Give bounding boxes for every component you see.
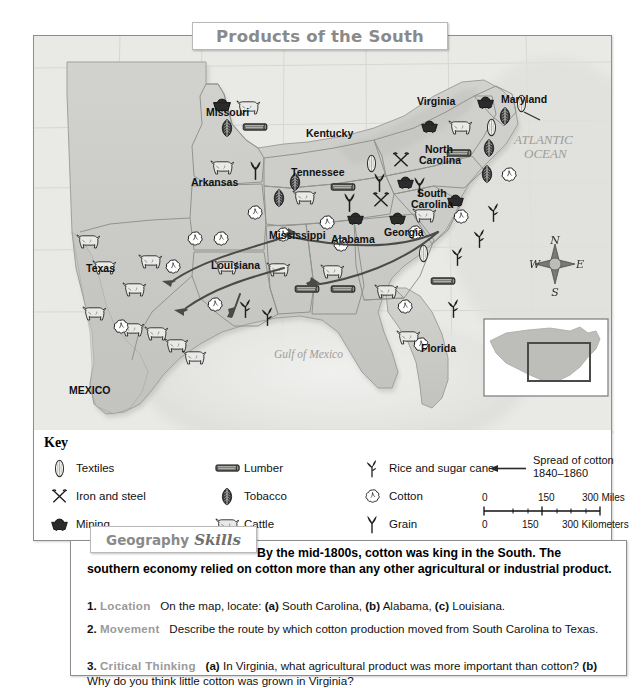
question-3-b-text: Why do you think little cotton was grown… <box>87 674 354 687</box>
map-label-mexico: MEXICO <box>69 384 110 396</box>
scale-km-300: 300 Kilometers <box>562 519 629 530</box>
scale-bar-graphic <box>482 504 632 518</box>
geography-skills-tab: Geography Skills <box>90 526 257 553</box>
scale-miles-300: 300 Miles <box>582 492 625 503</box>
question-3-number: 3. <box>87 659 97 672</box>
map-label-virginia: Virginia <box>417 95 455 107</box>
spread-of-cotton-label: Spread of cotton 1840–1860 <box>533 454 614 479</box>
key-title: Key <box>44 435 68 451</box>
page-title: Products of the South <box>216 27 424 46</box>
map-label-gulf-of-mexico: Gulf of Mexico <box>274 348 343 361</box>
key-item-grain: Grain <box>359 510 494 538</box>
question-1-a-label: (a) <box>265 599 279 612</box>
geography-skills-panel: By the mid-1800s, cotton was king in the… <box>70 540 627 676</box>
svg-text:E: E <box>575 258 584 271</box>
key-label-cotton: Cotton <box>389 490 423 502</box>
key-label-iron-and-steel: Iron and steel <box>76 490 146 502</box>
map-label-georgia: Georgia <box>384 226 424 238</box>
question-2-number: 2. <box>87 622 97 635</box>
spread-arrow-icon <box>489 459 527 477</box>
rice-and-sugar-cane-icon <box>359 457 385 479</box>
map-svg: N E S W Missouri Kentucky Virginia Maryl… <box>34 36 611 431</box>
question-1-body: On the map, locate: (a) South Carolina, … <box>160 599 505 612</box>
question-1-c-label: (c) <box>435 599 449 612</box>
map-scale-bar: 0 150 300 Miles 0 150 300 Kilometers <box>482 492 632 531</box>
textiles-icon <box>46 457 72 479</box>
question-3-a-label: (a) <box>206 659 220 672</box>
key-item-tobacco: Tobacco <box>214 482 287 510</box>
map-label-atlantic-ocean: ATLANTIC <box>513 132 573 147</box>
question-1-a-text: South Carolina, <box>279 599 365 612</box>
scale-km-150: 150 <box>522 519 539 530</box>
key-label-grain: Grain <box>389 518 417 530</box>
question-1-number: 1. <box>87 599 97 612</box>
spread-line-1: Spread of cotton <box>533 454 614 466</box>
map-label-louisiana: Louisiana <box>211 259 260 271</box>
key-label-textiles: Textiles <box>76 462 114 474</box>
scale-miles-0: 0 <box>482 492 488 503</box>
map-label-kentucky: Kentucky <box>306 127 353 139</box>
lumber-icon <box>214 457 240 479</box>
skills-question-1: 1. Location On the map, locate: (a) Sout… <box>87 599 615 614</box>
map-label-atlantic-ocean2: OCEAN <box>524 146 568 161</box>
scale-miles-150: 150 <box>538 492 555 503</box>
question-1-heading: Location <box>100 599 151 612</box>
svg-text:S: S <box>551 286 559 299</box>
map-label-alabama: Alabama <box>331 233 375 245</box>
scale-miles-labels: 0 150 300 Miles <box>482 492 632 504</box>
key-item-spread-of-cotton: Spread of cotton 1840–1860 <box>489 454 614 479</box>
skills-tab-word-skills: Skills <box>194 531 241 549</box>
map-frame: N E S W Missouri Kentucky Virginia Maryl… <box>33 35 612 432</box>
question-1-c-text: Louisiana. <box>449 599 505 612</box>
key-label-rice-and-sugar-cane: Rice and sugar cane <box>389 462 494 474</box>
key-item-textiles: Textiles <box>46 454 146 482</box>
skills-tab-word-geography: Geography <box>106 532 189 548</box>
key-column-3: Rice and sugar cane Cotton Grain <box>359 454 494 538</box>
question-3-a-text: In Virginia, what agricultural product w… <box>220 659 583 672</box>
question-1-b-label: (b) <box>365 599 380 612</box>
key-item-rice-and-sugar-cane: Rice and sugar cane <box>359 454 494 482</box>
map-label-arkansas: Arkansas <box>191 176 238 188</box>
scale-km-labels: 0 150 300 Kilometers <box>482 519 632 531</box>
spread-line-2: 1840–1860 <box>533 467 588 479</box>
question-3-b-label: (b) <box>582 659 597 672</box>
cotton-icon <box>359 485 385 507</box>
map-label-texas: Texas <box>86 262 115 274</box>
key-item-iron-and-steel: Iron and steel <box>46 482 146 510</box>
map-label-maryland: Maryland <box>501 93 547 105</box>
map-key-box: Key Textiles Iron and steel Mining <box>33 430 612 541</box>
map-canvas: N E S W Missouri Kentucky Virginia Maryl… <box>34 36 611 431</box>
question-2-heading: Movement <box>100 622 160 635</box>
mining-icon <box>46 513 72 535</box>
question-1-prefix: On the map, locate: <box>160 599 264 612</box>
tobacco-icon <box>214 485 240 507</box>
map-title-banner: Products of the South <box>192 22 448 50</box>
question-1-b-text: Alabama, <box>380 599 435 612</box>
iron-and-steel-icon <box>46 485 72 507</box>
key-item-cotton: Cotton <box>359 482 494 510</box>
map-label-missouri: Missouri <box>206 106 249 118</box>
question-2-body: Describe the route by which cotton produ… <box>169 622 598 635</box>
key-label-tobacco: Tobacco <box>244 490 287 502</box>
map-label-north-carolina2: Carolina <box>419 154 461 166</box>
map-label-tennessee: Tennessee <box>291 166 345 178</box>
question-3-heading: Critical Thinking <box>100 659 196 672</box>
key-label-lumber: Lumber <box>244 462 283 474</box>
key-item-lumber: Lumber <box>214 454 287 482</box>
map-label-south-carolina2: Carolina <box>411 198 453 210</box>
svg-text:W: W <box>529 258 542 271</box>
skills-question-3: 3. Critical Thinking (a) In Virginia, wh… <box>87 659 615 688</box>
svg-text:N: N <box>549 234 560 247</box>
skills-question-2: 2. Movement Describe the route by which … <box>87 622 615 637</box>
map-label-florida: Florida <box>421 342 456 354</box>
scale-km-0: 0 <box>482 519 488 530</box>
grain-icon <box>359 513 385 535</box>
map-label-mississippi: Mississippi <box>269 229 326 241</box>
